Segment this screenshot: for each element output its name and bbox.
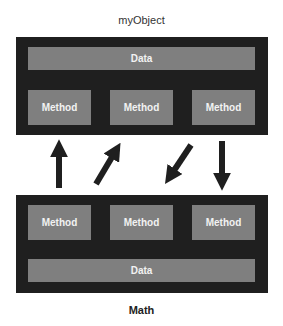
bottom-object-title: Math [0, 304, 283, 316]
top-object: Data Method Method Method [16, 37, 268, 135]
top-object-title: myObject [0, 14, 283, 26]
bottom-method-3: Method [192, 205, 255, 240]
bottom-method-2: Method [110, 205, 173, 240]
bottom-data-box: Data [28, 259, 255, 282]
bottom-method-1: Method [28, 205, 91, 240]
top-method-2: Method [110, 90, 173, 125]
bottom-object: Method Method Method Data [16, 195, 268, 293]
top-method-3: Method [192, 90, 255, 125]
top-data-box: Data [28, 47, 255, 70]
top-method-1: Method [28, 90, 91, 125]
arrow-down-left-icon [171, 145, 191, 175]
arrows-group [0, 135, 283, 195]
arrow-up-right-icon [96, 152, 115, 184]
